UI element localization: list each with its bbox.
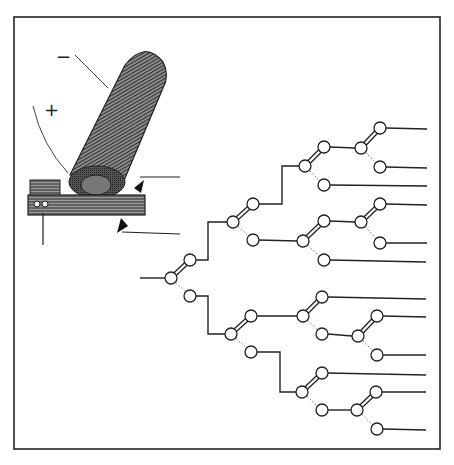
lower-terminal-circle-icon [184,290,196,302]
pivot-terminal-circle-icon [227,216,239,228]
relay-switch-s3b [355,198,386,249]
lower-terminal-circle-icon [371,423,383,435]
relay-switch-s0 [165,254,196,302]
arrow-up-icon [117,218,128,233]
coil-lead-wire [122,232,180,234]
lower-terminal-circle-icon [316,328,328,340]
figure-frame [14,17,440,449]
lower-terminal-circle-icon [374,161,386,173]
upper-terminal-circle-icon [316,291,328,303]
pivot-terminal-circle-icon [297,310,309,322]
upper-terminal-circle-icon [374,198,386,210]
wire [330,185,427,186]
lower-terminal-circle-icon [374,237,386,249]
arrow-down-icon [134,180,144,193]
lower-terminal-circle-icon [371,349,383,361]
relay-switch-s2c [297,291,328,340]
wire [330,260,426,262]
relay-switch-s3c [352,310,383,361]
diagram-canvas [0,0,454,465]
upper-terminal-circle-icon [371,310,383,322]
wire [383,316,426,317]
pivot-terminal-circle-icon [351,404,363,416]
lower-terminal-circle-icon [247,234,259,246]
lower-terminal-circle-icon [316,404,328,416]
wire [196,296,225,334]
relay-switch-s3a [355,122,386,173]
upper-terminal-circle-icon [245,310,257,322]
wire [330,147,355,148]
coil-core [81,175,111,195]
lower-terminal-circle-icon [318,254,330,266]
relay-switch-s2a [299,141,330,191]
relay-switch-s1b [225,310,257,358]
relay-switch-s2d [296,367,328,416]
upper-terminal-circle-icon [318,141,330,153]
wire [386,128,427,129]
pivot-terminal-circle-icon [352,330,364,342]
pivot-terminal-circle-icon [297,235,309,247]
relay-switch-s3d [351,386,383,435]
wire [386,204,427,205]
upper-terminal-circle-icon [318,215,330,227]
pivot-terminal-circle-icon [355,216,367,228]
plus-label: + [44,101,59,119]
relay-switch-s2b [297,215,330,266]
pivot-terminal-circle-icon [165,272,177,284]
minus-label: − [56,48,71,66]
wire [328,373,426,375]
pivot-terminal-circle-icon [296,386,308,398]
wire [328,297,426,299]
wire [257,352,296,392]
relay-switches [165,122,386,435]
lower-terminal-circle-icon [245,346,257,358]
lower-terminal-circle-icon [318,179,330,191]
pivot-terminal-circle-icon [299,160,311,172]
wire [330,221,355,222]
wire [259,166,299,204]
relay-tree-diagram: − + [0,0,454,465]
relay-switch-s1a [227,198,259,246]
screw-icon [42,201,48,207]
upper-terminal-circle-icon [374,122,386,134]
screw-icon [34,201,40,207]
upper-terminal-circle-icon [247,198,259,210]
pivot-terminal-circle-icon [225,328,237,340]
negative-wire [75,55,108,88]
wire [259,240,297,241]
wire [328,334,352,336]
pivot-terminal-circle-icon [355,142,367,154]
wire [386,167,427,168]
electromagnet-coil [28,52,180,245]
upper-terminal-circle-icon [316,367,328,379]
wiring [140,128,427,430]
wire [383,429,426,430]
upper-terminal-circle-icon [370,386,382,398]
wire [196,222,227,260]
upper-terminal-circle-icon [184,254,196,266]
